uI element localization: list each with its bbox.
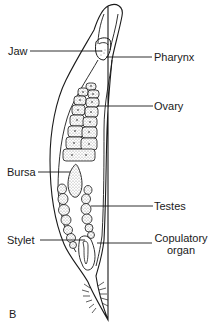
stylet-shape xyxy=(83,241,88,264)
testes-right xyxy=(81,186,95,239)
jaw-shape xyxy=(99,43,108,45)
panel-letter: B xyxy=(9,308,16,320)
label-jaw: Jaw xyxy=(8,45,28,57)
ovary-cells xyxy=(63,83,99,161)
label-copulatory-organ-line2: organ xyxy=(152,244,210,256)
label-stylet: Stylet xyxy=(7,234,35,246)
label-ovary: Ovary xyxy=(154,100,183,112)
bursa-shape xyxy=(68,164,82,197)
label-bursa: Bursa xyxy=(7,166,36,178)
label-testes: Testes xyxy=(154,200,186,212)
copulatory-organ-shape xyxy=(79,236,95,270)
flatworm-diagram xyxy=(0,0,212,328)
label-pharynx: Pharynx xyxy=(154,51,194,63)
label-copulatory-organ: Copulatory organ xyxy=(152,232,210,256)
body-outline xyxy=(50,4,122,320)
label-copulatory-organ-line1: Copulatory xyxy=(152,232,210,244)
pharynx-dots xyxy=(101,50,106,56)
